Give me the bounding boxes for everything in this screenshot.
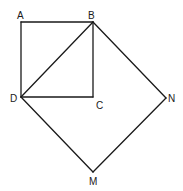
segment-nm	[93, 98, 166, 172]
label-d: D	[10, 93, 17, 104]
label-a: A	[17, 10, 24, 21]
segment-db-diagonal	[21, 22, 93, 97]
segment-md	[21, 97, 93, 172]
label-n: N	[168, 93, 175, 104]
segment-bn	[93, 22, 166, 98]
label-b: B	[88, 10, 95, 21]
label-m: M	[89, 176, 97, 187]
label-c: C	[96, 100, 103, 111]
geometry-diagram: A B C D N M	[0, 0, 183, 191]
